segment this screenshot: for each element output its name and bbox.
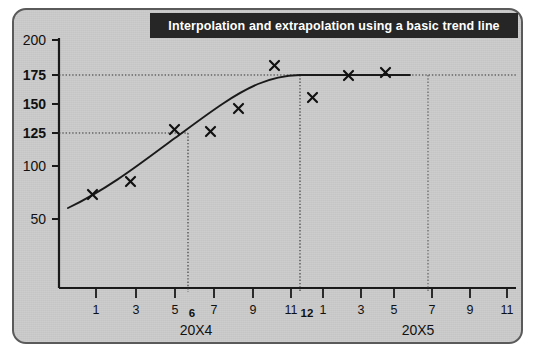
data-point-marker [88,190,97,199]
data-point-marker [126,177,135,186]
x-tick-label-20x4-7: 7 [202,303,226,317]
trend-line [68,75,410,208]
period-label-20x5: 20X5 [383,322,453,338]
x-tick-marks [96,288,507,298]
x-tick-label-20x5-1: 1 [311,303,335,317]
x-tick-label-20x5-3: 3 [349,303,373,317]
data-point-marker [234,104,243,113]
period-label-20x4: 20X4 [161,322,231,338]
x-tick-label-20x4-3: 3 [124,303,148,317]
y-tick-label-150: 150 [2,96,46,112]
data-point-marker [270,61,279,70]
x-tick-label-20x5-5: 5 [382,303,406,317]
x-tick-label-20x5-7: 7 [420,303,444,317]
y-tick-label-100: 100 [2,158,46,174]
y-tick-label-175: 175 [2,67,46,83]
chart-title-banner: Interpolation and extrapolation using a … [150,13,518,38]
data-point-marker [206,127,215,136]
data-point-marker [308,93,317,102]
data-point-markers [88,61,390,199]
x-tick-label-20x5-9: 9 [458,303,482,317]
plot-area [0,0,535,352]
x-tick-label-20x5-11: 11 [495,303,519,317]
x-tick-label-20x4-9: 9 [241,303,265,317]
chart-title: Interpolation and extrapolation using a … [168,19,499,33]
y-tick-label-50: 50 [2,211,46,227]
x-tick-label-20x4-1: 1 [84,303,108,317]
x-tick-label-20x4-6: 6 [180,307,204,319]
y-tick-label-125: 125 [2,125,46,141]
chart-screenshot: Interpolation and extrapolation using a … [0,0,535,352]
y-tick-label-200: 200 [2,32,46,48]
